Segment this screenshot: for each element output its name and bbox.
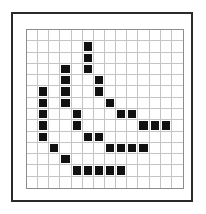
empty-cell — [127, 177, 138, 188]
empty-cell — [138, 109, 149, 120]
empty-cell — [161, 177, 172, 188]
empty-cell — [105, 53, 116, 64]
empty-cell — [116, 30, 127, 41]
filled-cell — [60, 75, 71, 86]
filled-cell — [83, 41, 94, 52]
empty-cell — [172, 53, 183, 64]
empty-cell — [83, 30, 94, 41]
empty-cell — [161, 143, 172, 154]
empty-cell — [72, 75, 83, 86]
empty-cell — [94, 120, 105, 131]
empty-cell — [161, 41, 172, 52]
empty-cell — [38, 143, 49, 154]
empty-cell — [83, 109, 94, 120]
empty-cell — [127, 98, 138, 109]
empty-cell — [72, 64, 83, 75]
empty-cell — [83, 177, 94, 188]
empty-cell — [38, 165, 49, 176]
empty-cell — [60, 143, 71, 154]
empty-cell — [172, 132, 183, 143]
empty-cell — [38, 154, 49, 165]
empty-cell — [150, 53, 161, 64]
empty-cell — [72, 143, 83, 154]
empty-cell — [127, 154, 138, 165]
empty-cell — [49, 165, 60, 176]
empty-cell — [105, 64, 116, 75]
filled-cell — [127, 109, 138, 120]
empty-cell — [150, 177, 161, 188]
empty-cell — [127, 132, 138, 143]
empty-cell — [161, 98, 172, 109]
empty-cell — [127, 165, 138, 176]
filled-cell — [60, 98, 71, 109]
filled-cell — [116, 165, 127, 176]
empty-cell — [49, 154, 60, 165]
empty-cell — [105, 30, 116, 41]
filled-cell — [60, 154, 71, 165]
filled-cell — [38, 98, 49, 109]
empty-cell — [150, 109, 161, 120]
empty-cell — [27, 64, 38, 75]
empty-cell — [27, 165, 38, 176]
empty-cell — [116, 177, 127, 188]
empty-cell — [150, 154, 161, 165]
filled-cell — [161, 120, 172, 131]
empty-cell — [94, 64, 105, 75]
empty-cell — [172, 154, 183, 165]
empty-cell — [49, 30, 60, 41]
empty-cell — [38, 53, 49, 64]
empty-cell — [72, 177, 83, 188]
filled-cell — [38, 132, 49, 143]
empty-cell — [161, 86, 172, 97]
empty-cell — [83, 75, 94, 86]
empty-cell — [60, 30, 71, 41]
empty-cell — [105, 75, 116, 86]
empty-cell — [138, 154, 149, 165]
empty-cell — [138, 86, 149, 97]
empty-cell — [150, 41, 161, 52]
filled-cell — [94, 86, 105, 97]
empty-cell — [72, 86, 83, 97]
empty-cell — [60, 165, 71, 176]
empty-cell — [27, 30, 38, 41]
empty-cell — [83, 98, 94, 109]
filled-cell — [83, 53, 94, 64]
empty-cell — [138, 64, 149, 75]
filled-cell — [138, 143, 149, 154]
empty-cell — [172, 177, 183, 188]
empty-cell — [105, 41, 116, 52]
empty-cell — [116, 98, 127, 109]
empty-cell — [27, 132, 38, 143]
empty-cell — [49, 86, 60, 97]
empty-cell — [105, 109, 116, 120]
empty-cell — [49, 132, 60, 143]
empty-cell — [105, 86, 116, 97]
filled-cell — [49, 143, 60, 154]
empty-cell — [49, 177, 60, 188]
empty-cell — [150, 30, 161, 41]
empty-cell — [105, 154, 116, 165]
filled-cell — [94, 132, 105, 143]
empty-cell — [138, 165, 149, 176]
empty-cell — [94, 154, 105, 165]
empty-cell — [127, 64, 138, 75]
empty-cell — [127, 86, 138, 97]
empty-cell — [172, 30, 183, 41]
empty-cell — [161, 53, 172, 64]
empty-cell — [94, 177, 105, 188]
empty-cell — [172, 109, 183, 120]
empty-cell — [138, 30, 149, 41]
empty-cell — [38, 41, 49, 52]
empty-cell — [116, 41, 127, 52]
empty-cell — [161, 75, 172, 86]
empty-cell — [27, 53, 38, 64]
filled-cell — [105, 143, 116, 154]
empty-cell — [172, 120, 183, 131]
empty-cell — [94, 41, 105, 52]
empty-cell — [150, 98, 161, 109]
empty-cell — [49, 64, 60, 75]
empty-cell — [150, 64, 161, 75]
empty-cell — [138, 53, 149, 64]
pixel-grid — [26, 29, 184, 189]
empty-cell — [161, 154, 172, 165]
